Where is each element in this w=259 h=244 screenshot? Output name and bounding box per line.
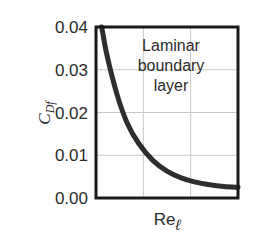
y-tick-label: 0.03: [55, 61, 88, 80]
x-axis-label-subscript: ℓ: [174, 216, 181, 233]
y-tick-label: 0.00: [55, 189, 88, 208]
chart: 0.000.010.020.030.04 CDf Laminar boundar…: [0, 0, 259, 244]
annotation-line-1: Laminar: [142, 37, 200, 54]
x-axis-label: Reℓ: [154, 210, 182, 233]
y-tick-label: 0.02: [55, 104, 88, 123]
annotation-line-2: boundary: [138, 57, 205, 74]
annotation-line-3: layer: [154, 77, 189, 94]
y-axis-label-subscript: Df: [43, 100, 57, 115]
annotation-laminar-boundary-layer: Laminar boundary layer: [138, 37, 205, 94]
x-axis-label-main: Re: [154, 210, 176, 229]
y-tick-label: 0.04: [55, 18, 88, 37]
y-axis-label-main: C: [35, 113, 54, 125]
svg-text:CDf: CDf: [35, 100, 57, 125]
y-tick-labels: 0.000.010.020.030.04: [55, 18, 88, 208]
y-axis-label: CDf: [35, 100, 57, 125]
y-tick-label: 0.01: [55, 146, 88, 165]
